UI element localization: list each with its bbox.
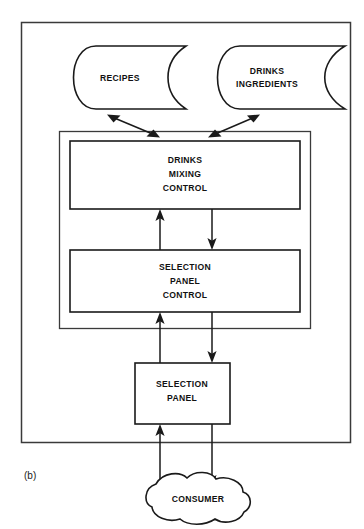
data-store-drinks-ingredients[interactable]: DRINKS INGREDIENTS: [218, 46, 346, 109]
arrowhead-toward-mixing-control: [208, 130, 222, 138]
process-drinks-mixing-control[interactable]: DRINKS MIXING CONTROL: [70, 141, 300, 209]
arrowhead-toward-ingredients: [247, 115, 260, 123]
data-store-ingredients-label-line2: INGREDIENTS: [236, 79, 298, 89]
figure-caption: (b): [24, 470, 36, 481]
flow-mixing-control-to-panel-control: [207, 209, 216, 250]
data-flow-diagram: RECIPES DRINKS INGREDIENTS DRINKS MIXING…: [0, 0, 364, 529]
data-store-recipes[interactable]: RECIPES: [74, 46, 187, 109]
external-entity-consumer-label: CONSUMER: [172, 494, 225, 504]
arrowhead-toward-recipes: [107, 115, 121, 123]
flow-line: [213, 117, 255, 135]
external-entity-consumer[interactable]: CONSUMER: [146, 472, 250, 524]
data-store-ingredients-label-line1: DRINKS: [250, 66, 285, 76]
flow-panel-control-to-panel: [207, 312, 216, 363]
process-label-line3: CONTROL: [163, 290, 208, 300]
process-selection-panel[interactable]: SELECTION PANEL: [135, 363, 230, 424]
process-label-line1: DRINKS: [168, 155, 203, 165]
process-label-line3: CONTROL: [163, 183, 208, 193]
process-label-line2: MIXING: [169, 169, 201, 179]
data-store-recipes-label: RECIPES: [100, 73, 140, 83]
arrowhead-toward-mixing-control: [147, 130, 161, 138]
process-label-line2: PANEL: [170, 276, 200, 286]
flow-panel-to-panel-control: [155, 312, 164, 363]
process-label-line1: SELECTION: [156, 379, 208, 389]
process-selection-panel-control[interactable]: SELECTION PANEL CONTROL: [70, 250, 300, 312]
flow-recipes-mixing-control: [107, 115, 160, 138]
process-label-line2: PANEL: [167, 393, 197, 403]
flow-line: [112, 117, 155, 135]
flow-mixing-control-ingredients: [208, 115, 260, 138]
process-label-line1: SELECTION: [159, 262, 211, 272]
figure-container: RECIPES DRINKS INGREDIENTS DRINKS MIXING…: [0, 0, 364, 529]
data-store-shape: [218, 46, 346, 109]
flow-panel-control-to-mixing-control: [155, 209, 164, 250]
